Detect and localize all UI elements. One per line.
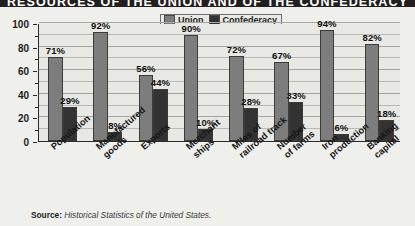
y-axis-tick bbox=[33, 95, 37, 96]
y-axis-tick bbox=[33, 71, 37, 72]
bar-value-label: 67% bbox=[272, 50, 291, 61]
y-axis-tick-label: 60 bbox=[18, 66, 29, 77]
source-label: Source: bbox=[31, 210, 62, 220]
bar-value-label: 82% bbox=[363, 32, 382, 43]
source-note: Source: Historical Statistics of the Uni… bbox=[31, 210, 211, 220]
bar-value-label: 28% bbox=[241, 96, 260, 107]
y-axis-tick bbox=[33, 48, 37, 49]
bar-value-label: 33% bbox=[287, 90, 306, 101]
bar-value-label: 90% bbox=[182, 23, 201, 34]
chart-container: Union Confederacy 020406080100 71%29%92%… bbox=[0, 7, 415, 226]
bar-value-label: 72% bbox=[227, 44, 246, 55]
y-axis-tick-label: 20 bbox=[18, 113, 29, 124]
chart-title-bar: RESOURCES OF THE UNION AND OF THE CONFED… bbox=[0, 0, 415, 7]
bar-value-label: 44% bbox=[151, 77, 170, 88]
page-title: RESOURCES OF THE UNION AND OF THE CONFED… bbox=[7, 0, 408, 7]
bar-union[interactable] bbox=[93, 32, 108, 141]
source-text: Historical Statistics of the United Stat… bbox=[64, 210, 211, 220]
y-axis-tick-label: 40 bbox=[18, 89, 29, 100]
y-axis-tick-label: 80 bbox=[18, 42, 29, 53]
y-axis: 020406080100 bbox=[0, 24, 34, 142]
bar-value-label: 29% bbox=[60, 95, 79, 106]
y-axis-tick bbox=[33, 24, 37, 25]
bar-value-label: 56% bbox=[136, 63, 155, 74]
bar-value-label: 18% bbox=[377, 108, 396, 119]
y-axis-tick-label: 100 bbox=[12, 19, 29, 30]
bar-value-label: 94% bbox=[317, 18, 336, 29]
bar-value-label: 71% bbox=[46, 45, 65, 56]
x-axis-labels: PopulationManufacturedgoodsExportsMercha… bbox=[0, 142, 415, 204]
y-axis-tick bbox=[33, 118, 37, 119]
bar-value-label: 92% bbox=[91, 20, 110, 31]
bar-union[interactable] bbox=[320, 30, 335, 141]
